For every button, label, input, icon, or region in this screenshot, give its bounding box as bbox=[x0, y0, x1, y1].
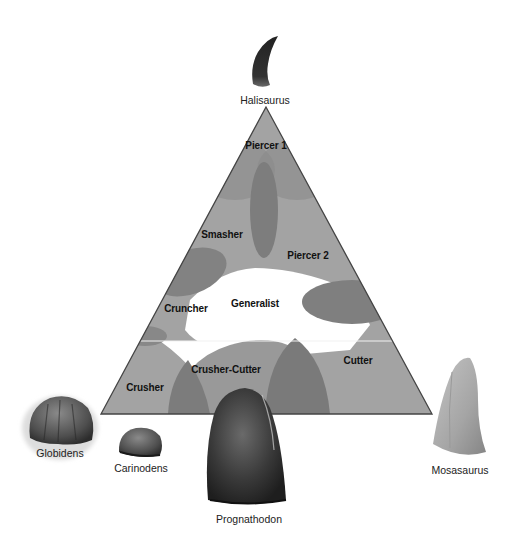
taxon-label-halisaurus: Halisaurus bbox=[240, 94, 290, 106]
taxon-label-prognathodon: Prognathodon bbox=[216, 513, 282, 525]
zone-label-cruncher: Cruncher bbox=[164, 303, 208, 314]
taxon-label-carinodens: Carinodens bbox=[114, 462, 168, 474]
zone-label-generalist: Generalist bbox=[231, 298, 279, 309]
halisaurus-tooth-image bbox=[252, 36, 278, 87]
triangle-graphic bbox=[0, 0, 518, 543]
taxon-label-globidens: Globidens bbox=[36, 447, 83, 459]
zone-label-piercer-2: Piercer 2 bbox=[287, 250, 328, 261]
zone-label-piercer-1: Piercer 1 bbox=[245, 140, 286, 151]
taxon-label-mosasaurus: Mosasaurus bbox=[431, 464, 488, 476]
mosasaurus-tooth-image bbox=[433, 358, 486, 455]
carinodens-tooth-image bbox=[119, 428, 162, 457]
ternary-diagram: Piercer 1 Smasher Piercer 2 Cruncher Gen… bbox=[0, 0, 518, 543]
zone-label-crusher: Crusher bbox=[126, 382, 164, 393]
zone-label-crusher-cutter: Crusher-Cutter bbox=[191, 364, 261, 375]
zone-label-cutter: Cutter bbox=[344, 355, 373, 366]
zone-label-smasher: Smasher bbox=[201, 229, 243, 240]
